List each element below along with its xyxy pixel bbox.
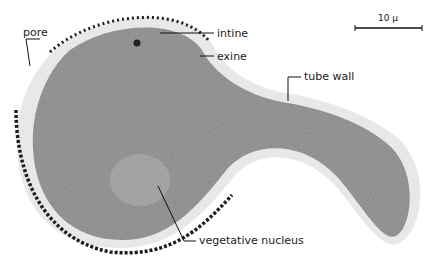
exine-label: exine [217, 51, 247, 62]
pore-label: pore [23, 27, 48, 38]
dark-granule [134, 40, 141, 47]
tube-wall-label: tube wall [304, 71, 354, 82]
scale-bar-label: 10 µ [378, 14, 398, 23]
intine-label: intine [217, 28, 248, 39]
pollen-grain-micrograph: pore intine exine tube wall vegetative n… [0, 0, 436, 262]
pore-leader [26, 39, 40, 66]
vegetative-nucleus-label: vegetative nucleus [199, 235, 304, 246]
vegetative-nucleus [110, 154, 170, 206]
